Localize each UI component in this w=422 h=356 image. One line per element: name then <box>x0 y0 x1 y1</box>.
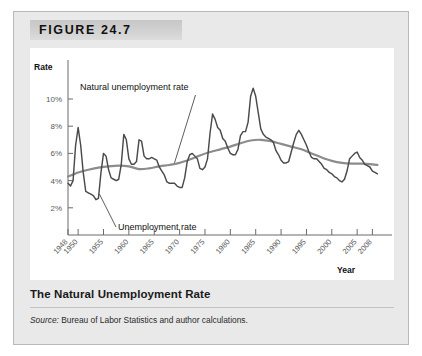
y-axis-tick-labels: 10%8%6%4%2% <box>46 95 62 213</box>
y-axis-ticks <box>68 99 73 208</box>
caption-divider <box>30 307 394 308</box>
x-tick-label: 1995 <box>290 237 308 256</box>
unemployment-rate-chart: 10%8%6%4%2% Rate 19481950195519601965197… <box>30 48 394 280</box>
figure-card: FIGURE 24.7 10%8%6%4%2% Rate 19481950195… <box>13 11 409 345</box>
y-tick-label: 6% <box>50 149 62 158</box>
x-axis-group: 1948195019551960196519701975198019851990… <box>51 229 392 256</box>
x-tick-label: 1985 <box>239 237 257 256</box>
figure-number-label: FIGURE 24.7 <box>30 23 132 37</box>
source-text: Bureau of Labor Statistics and author ca… <box>59 315 248 325</box>
unemployment-rate-leader-line <box>100 194 117 227</box>
chart-plot-panel: 10%8%6%4%2% Rate 19481950195519601965197… <box>30 48 394 280</box>
y-tick-label: 8% <box>50 122 62 131</box>
y-axis-group: 10%8%6%4%2% <box>46 60 73 235</box>
y-axis-title: Rate <box>34 62 53 72</box>
x-tick-label: 1955 <box>87 237 105 256</box>
figure-caption-title: The Natural Unemployment Rate <box>30 288 394 300</box>
figure-header-band: FIGURE 24.7 <box>30 20 182 40</box>
unemployment-rate-line <box>68 88 377 200</box>
x-tick-label: 1965 <box>138 237 156 256</box>
figure-source-line: Source: Bureau of Labor Statistics and a… <box>30 315 394 325</box>
source-word: Source: <box>30 315 59 325</box>
x-axis-tick-labels: 1948195019551960196519701975198019851990… <box>51 237 373 256</box>
x-tick-label: 2000 <box>315 237 333 256</box>
x-axis-ticks <box>68 229 372 235</box>
y-tick-label: 2% <box>50 204 62 213</box>
y-tick-label: 10% <box>46 95 62 104</box>
unemployment-rate-annotation-label: Unemployment rate <box>118 222 197 232</box>
x-tick-label: 1980 <box>214 237 232 256</box>
chart-annotations: Natural unemployment rate Unemployment r… <box>80 82 197 232</box>
x-axis-title: Year <box>337 265 356 275</box>
x-tick-label: 1960 <box>112 237 130 256</box>
x-tick-label: 1975 <box>188 237 206 256</box>
x-tick-label: 2008 <box>356 237 374 256</box>
x-tick-label: 1970 <box>163 237 181 256</box>
natural-rate-annotation-label: Natural unemployment rate <box>80 82 189 92</box>
x-tick-label: 1990 <box>265 237 283 256</box>
y-tick-label: 4% <box>50 177 62 186</box>
figure-caption-block: The Natural Unemployment Rate Source: Bu… <box>30 288 394 325</box>
x-tick-label: 2005 <box>341 237 359 256</box>
natural-unemployment-rate-line <box>68 140 377 177</box>
